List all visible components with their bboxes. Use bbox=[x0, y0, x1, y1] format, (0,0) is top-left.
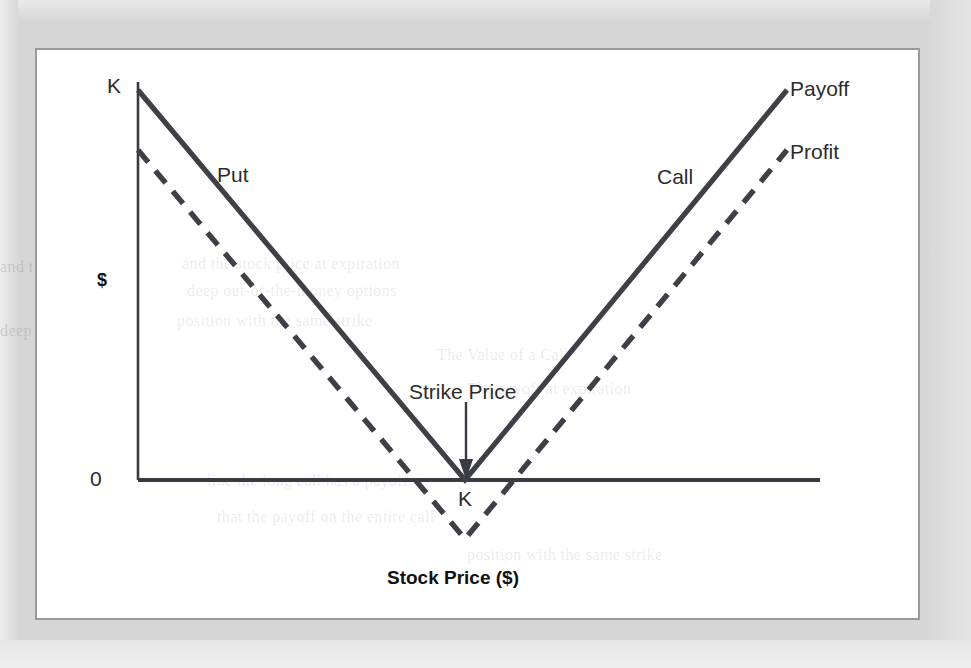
put-curve-label: Put bbox=[217, 164, 249, 185]
payoff-series-line bbox=[138, 90, 787, 480]
scan-top-band bbox=[0, 0, 971, 24]
strike-price-annotation: Strike Price bbox=[409, 381, 516, 402]
y-axis-top-tick-label: K bbox=[107, 75, 121, 96]
figure-page: and the stock price at expiration deep o… bbox=[0, 0, 971, 668]
profit-series-label: Profit bbox=[790, 141, 839, 162]
scan-bottom-band bbox=[0, 640, 971, 668]
scan-left-band bbox=[0, 0, 18, 668]
scan-right-band bbox=[930, 0, 971, 668]
strike-tick-label: K bbox=[458, 488, 472, 509]
y-axis-title: $ bbox=[97, 271, 107, 289]
strike-price-arrow-icon bbox=[459, 402, 473, 480]
x-axis-title: Stock Price ($) bbox=[387, 568, 519, 587]
payoff-series-label: Payoff bbox=[790, 78, 849, 99]
payoff-profit-chart bbox=[37, 50, 918, 618]
figure-panel: and the stock price at expiration deep o… bbox=[35, 48, 920, 620]
call-curve-label: Call bbox=[657, 166, 693, 187]
y-axis-zero-tick-label: 0 bbox=[90, 468, 102, 489]
